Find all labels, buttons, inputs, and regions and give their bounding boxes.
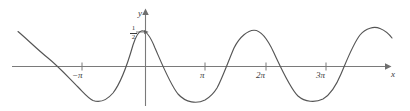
graph-canvas [0, 0, 410, 111]
y-axis-label: y [138, 9, 142, 18]
graph-figure: y x −π π 2π 3π 1 2 [0, 0, 410, 111]
x-tick-label-pi: π [200, 71, 205, 80]
y-value-label-one-half: 1 2 [128, 25, 139, 42]
x-tick-label-2pi: 2π [256, 71, 265, 80]
fraction-numerator: 1 [128, 25, 139, 32]
x-axis-label: x [391, 70, 395, 79]
x-tick-label-3pi: 3π [316, 71, 325, 80]
x-tick-label-neg-pi: −π [72, 71, 83, 80]
fraction-denominator: 2 [128, 34, 139, 41]
